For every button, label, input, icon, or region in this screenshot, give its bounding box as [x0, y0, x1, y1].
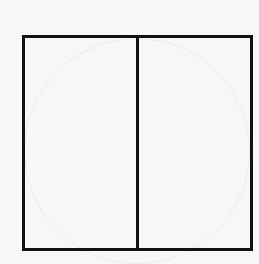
divided-square — [22, 35, 253, 251]
left-half — [25, 38, 139, 248]
right-half — [139, 38, 250, 248]
